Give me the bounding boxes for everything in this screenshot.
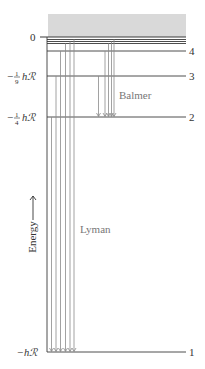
svg-text:hℛ: hℛ <box>22 112 36 123</box>
lyman-series <box>50 40 77 352</box>
energy-value-label-zero: 0 <box>30 31 36 43</box>
energy-value-label-minus-ninth: −19hℛ <box>7 70 36 86</box>
svg-text:−: − <box>17 346 23 358</box>
svg-text:1: 1 <box>15 70 19 78</box>
quantum-number-label: 1 <box>189 346 195 358</box>
balmer-label: Balmer <box>119 89 152 101</box>
labels: 43210−19hℛ−14hℛ−hℛBalmerLymanEnergy <box>7 31 195 358</box>
svg-text:1: 1 <box>15 111 19 119</box>
transitions <box>50 40 117 352</box>
svg-text:hℛ: hℛ <box>24 347 38 358</box>
energy-value-label-minus-quarter: −14hℛ <box>7 111 36 127</box>
continuum-region <box>48 14 186 37</box>
svg-text:4: 4 <box>15 119 19 127</box>
svg-text:hℛ: hℛ <box>22 71 36 82</box>
quantum-number-label: 4 <box>189 45 195 57</box>
lyman-label: Lyman <box>80 223 111 235</box>
quantum-number-label: 2 <box>189 111 195 123</box>
svg-text:9: 9 <box>15 78 19 86</box>
energy-levels <box>40 37 186 352</box>
svg-text:−: − <box>7 70 13 82</box>
energy-value-label-minus-one: −hℛ <box>17 346 38 358</box>
energy-axis-label: Energy <box>26 196 38 253</box>
svg-text:Energy: Energy <box>26 221 38 253</box>
energy-level-diagram: 43210−19hℛ−14hℛ−hℛBalmerLymanEnergy <box>0 0 205 369</box>
svg-text:0: 0 <box>30 31 36 43</box>
svg-text:−: − <box>7 111 13 123</box>
quantum-number-label: 3 <box>189 70 195 82</box>
